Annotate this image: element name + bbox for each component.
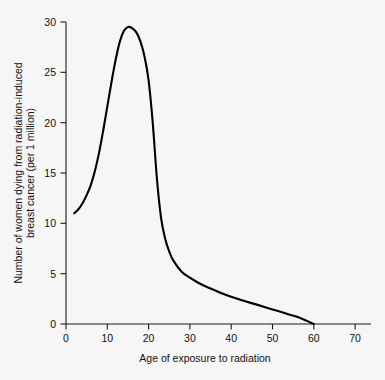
y-tick-label-15: 15 — [44, 167, 56, 179]
y-tick-label-25: 25 — [44, 66, 56, 78]
y-axis-ticks — [61, 22, 67, 324]
x-tick-label-10: 10 — [101, 332, 113, 344]
chart-plot-area: 0 5 10 15 20 25 30 0 10 20 30 40 50 — [0, 0, 385, 380]
x-tick-label-70: 70 — [349, 332, 361, 344]
x-axis-title: Age of exposure to radiation — [139, 352, 270, 364]
chart-figure: 0 5 10 15 20 25 30 0 10 20 30 40 50 — [0, 0, 385, 380]
x-tick-label-0: 0 — [63, 332, 69, 344]
x-tick-label-50: 50 — [267, 332, 279, 344]
y-tick-label-10: 10 — [44, 217, 56, 229]
x-tick-label-30: 30 — [184, 332, 196, 344]
y-tick-label-5: 5 — [50, 268, 56, 280]
y-tick-label-0: 0 — [50, 318, 56, 330]
x-tick-label-60: 60 — [308, 332, 320, 344]
x-tick-label-20: 20 — [143, 332, 155, 344]
y-axis-title-line2: breast cancer (per 1 million) — [24, 108, 36, 238]
x-tick-label-40: 40 — [225, 332, 237, 344]
y-axis-tick-labels: 0 5 10 15 20 25 30 — [44, 16, 56, 330]
x-axis-ticks — [66, 324, 355, 330]
y-tick-label-20: 20 — [44, 117, 56, 129]
data-curve-line — [74, 27, 314, 324]
y-tick-label-30: 30 — [44, 16, 56, 28]
x-axis-tick-labels: 0 10 20 30 40 50 60 70 — [63, 332, 361, 344]
y-axis-title-line1: Number of women dying from radiation-ind… — [12, 62, 24, 283]
